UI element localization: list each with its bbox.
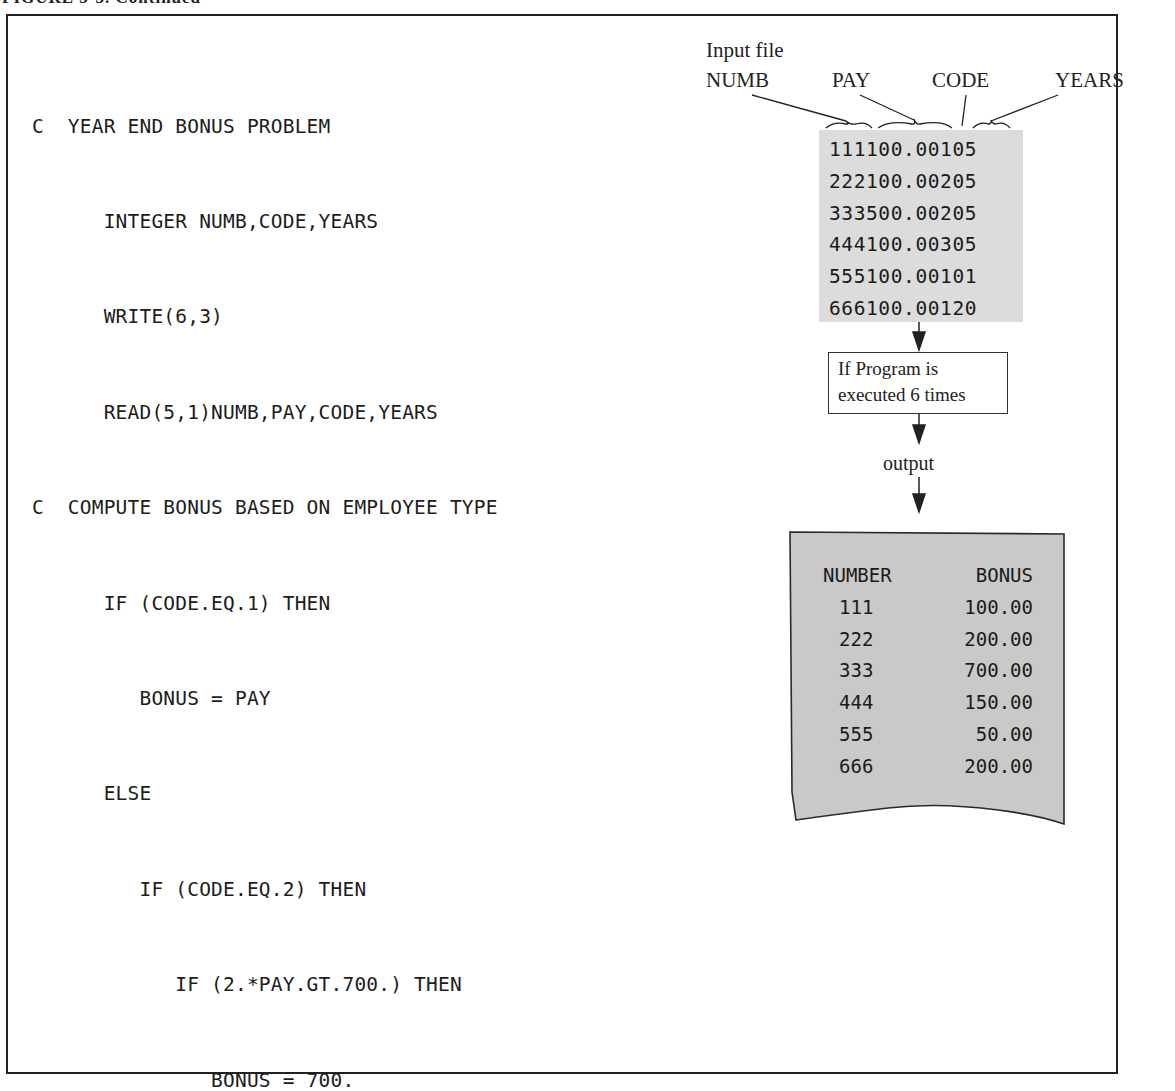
input-record: 111100.00105 <box>829 134 1023 166</box>
row-number: 444 <box>823 687 923 719</box>
process-line-1: If Program is <box>838 356 1007 382</box>
printout-row: 111 100.00 <box>823 592 1033 624</box>
row-number: 222 <box>823 624 923 656</box>
figure-caption: FIGURE 5-5. Continued <box>2 0 201 2</box>
program-listing: C YEAR END BONUS PROBLEM INTEGER NUMB,CO… <box>32 47 510 1091</box>
printout-header: NUMBER BONUS <box>823 560 1033 592</box>
row-bonus: 100.00 <box>923 592 1033 624</box>
input-file-records: 111100.00105 222100.00205 333500.00205 4… <box>819 130 1023 322</box>
row-bonus: 700.00 <box>923 655 1033 687</box>
row-bonus: 150.00 <box>923 687 1033 719</box>
row-number: 666 <box>823 751 923 783</box>
input-record: 222100.00205 <box>829 166 1023 198</box>
row-number: 555 <box>823 719 923 751</box>
code-line: C COMPUTE BONUS BASED ON EMPLOYEE TYPE <box>32 492 510 524</box>
code-line: READ(5,1)NUMB,PAY,CODE,YEARS <box>32 397 510 429</box>
input-record: 444100.00305 <box>829 229 1023 261</box>
code-line: WRITE(6,3) <box>32 301 510 333</box>
printout-row: 666 200.00 <box>823 751 1033 783</box>
code-line: INTEGER NUMB,CODE,YEARS <box>32 206 510 238</box>
row-number: 333 <box>823 655 923 687</box>
code-line: BONUS = PAY <box>32 683 510 715</box>
row-bonus: 200.00 <box>923 624 1033 656</box>
output-label: output <box>883 452 934 475</box>
printout-content: NUMBER BONUS 111 100.00 222 200.00 333 7… <box>823 560 1033 783</box>
input-record: 666100.00120 <box>829 293 1023 325</box>
code-line: BONUS = 700. <box>32 1065 510 1091</box>
code-line: IF (CODE.EQ.1) THEN <box>32 588 510 620</box>
field-label-years: YEARS <box>1055 68 1124 93</box>
code-line: IF (CODE.EQ.2) THEN <box>32 874 510 906</box>
input-record: 333500.00205 <box>829 198 1023 230</box>
field-label-numb: NUMB <box>706 68 769 93</box>
printout-row: 333 700.00 <box>823 655 1033 687</box>
code-line: ELSE <box>32 778 510 810</box>
process-box: If Program is executed 6 times <box>828 352 1008 414</box>
output-printout: NUMBER BONUS 111 100.00 222 200.00 333 7… <box>788 530 1068 830</box>
input-record: 555100.00101 <box>829 261 1023 293</box>
field-label-pay: PAY <box>832 68 870 93</box>
printout-row: 444 150.00 <box>823 687 1033 719</box>
field-label-code: CODE <box>932 68 989 93</box>
code-line: C YEAR END BONUS PROBLEM <box>32 111 510 143</box>
printout-row: 555 50.00 <box>823 719 1033 751</box>
code-line: IF (2.*PAY.GT.700.) THEN <box>32 969 510 1001</box>
row-bonus: 200.00 <box>923 751 1033 783</box>
printout-row: 222 200.00 <box>823 624 1033 656</box>
row-bonus: 50.00 <box>923 719 1033 751</box>
input-file-title: Input file <box>706 38 784 63</box>
process-line-2: executed 6 times <box>838 382 1007 408</box>
header-bonus: BONUS <box>923 560 1033 592</box>
row-number: 111 <box>823 592 923 624</box>
header-number: NUMBER <box>823 560 923 592</box>
